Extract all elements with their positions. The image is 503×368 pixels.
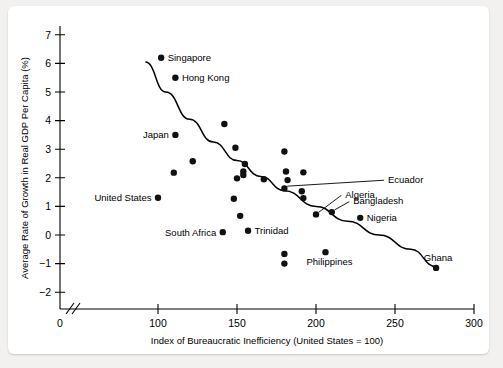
data-point bbox=[300, 195, 306, 201]
point-label-ghana: Ghana bbox=[424, 252, 453, 263]
scatter-plot: −2−101234567 0100150200250300 SingaporeH… bbox=[8, 6, 489, 354]
x-tick-label: 200 bbox=[307, 317, 325, 329]
x-tick-label: 300 bbox=[465, 317, 483, 329]
chart-card: −2−101234567 0100150200250300 SingaporeH… bbox=[8, 6, 489, 354]
point-label-south-africa: South Africa bbox=[165, 227, 217, 238]
point-label-japan: Japan bbox=[143, 129, 169, 140]
leader-line-ecuador bbox=[287, 180, 384, 186]
data-point bbox=[232, 145, 238, 151]
data-point bbox=[190, 158, 196, 164]
point-label-bangladesh: Bangladesh bbox=[353, 195, 403, 206]
y-tick-label: −1 bbox=[39, 257, 51, 269]
data-point bbox=[281, 148, 287, 154]
x-tick-label: 250 bbox=[386, 317, 404, 329]
y-tick-label: −2 bbox=[39, 286, 51, 298]
point-label-singapore: Singapore bbox=[168, 52, 211, 63]
data-point bbox=[231, 195, 237, 201]
point-label-united-states: United States bbox=[94, 192, 151, 203]
data-point-philippines bbox=[322, 249, 328, 255]
x-tick-label: 150 bbox=[228, 317, 246, 329]
data-point bbox=[284, 177, 290, 183]
data-point bbox=[221, 121, 227, 127]
x-tick-label: 0 bbox=[57, 317, 63, 329]
point-label-ecuador: Ecuador bbox=[388, 174, 423, 185]
y-tick-label: 0 bbox=[45, 229, 51, 241]
data-point bbox=[234, 175, 240, 181]
data-point bbox=[237, 213, 243, 219]
data-points bbox=[155, 54, 439, 271]
data-point bbox=[242, 161, 248, 167]
data-point bbox=[171, 169, 177, 175]
point-label-nigeria: Nigeria bbox=[367, 212, 398, 223]
y-tick-label: 7 bbox=[45, 29, 51, 41]
data-point-singapore bbox=[158, 54, 164, 60]
y-tick-label: 5 bbox=[45, 86, 51, 98]
data-point bbox=[281, 251, 287, 257]
data-point-ecuador bbox=[281, 185, 287, 191]
x-axis-ticks: 0100150200250300 bbox=[57, 304, 483, 329]
data-point-ghana bbox=[433, 265, 439, 271]
page-background: −2−101234567 0100150200250300 SingaporeH… bbox=[0, 0, 503, 368]
y-tick-label: 2 bbox=[45, 172, 51, 184]
data-point-united-states bbox=[155, 195, 161, 201]
x-axis-title: Index of Bureaucratic Inefficiency (Unit… bbox=[151, 335, 383, 346]
y-tick-label: 6 bbox=[45, 57, 51, 69]
y-axis-title: Average Rate of Growth in Real GDP Per C… bbox=[19, 57, 30, 279]
data-point bbox=[261, 176, 267, 182]
data-point-labels: SingaporeHong KongJapanUnited StatesSout… bbox=[94, 52, 453, 267]
data-point bbox=[299, 188, 305, 194]
data-point-south-africa bbox=[220, 229, 226, 235]
data-point-nigeria bbox=[357, 215, 363, 221]
data-point-japan bbox=[172, 132, 178, 138]
data-point-hong-kong bbox=[172, 75, 178, 81]
leader-line-bangladesh bbox=[335, 202, 350, 210]
x-tick-label: 100 bbox=[149, 317, 167, 329]
data-point bbox=[281, 260, 287, 266]
y-tick-label: 3 bbox=[45, 143, 51, 155]
point-label-hong-kong: Hong Kong bbox=[182, 72, 230, 83]
data-point-algeria bbox=[313, 211, 319, 217]
data-point-bangladesh bbox=[329, 209, 335, 215]
data-point bbox=[300, 169, 306, 175]
y-tick-label: 4 bbox=[45, 114, 51, 126]
y-axis-ticks: −2−101234567 bbox=[39, 29, 65, 298]
data-point-trinidad bbox=[245, 228, 251, 234]
y-tick-label: 1 bbox=[45, 200, 51, 212]
axes bbox=[60, 26, 474, 314]
data-point bbox=[283, 168, 289, 174]
data-point bbox=[240, 172, 246, 178]
point-label-trinidad: Trinidad bbox=[255, 225, 289, 236]
point-label-philippines: Philippines bbox=[307, 256, 353, 267]
